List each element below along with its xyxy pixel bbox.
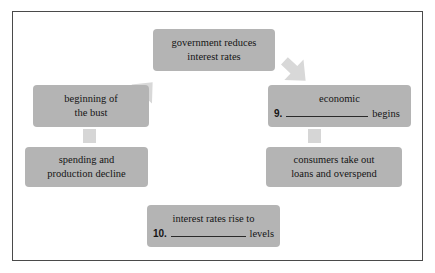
node-economic-begins: economic 9. begins — [268, 85, 411, 127]
connector-spending-to-beginning — [83, 129, 96, 143]
node-interest-tail: levels — [250, 227, 275, 241]
node-consumers-line-1: consumers take out — [293, 153, 374, 167]
node-consumers-take-loans: consumers take out loans and overspend — [266, 147, 402, 187]
node-interest-answer-line: 10. levels — [153, 226, 274, 241]
node-spending-production-decline: spending and production decline — [25, 147, 148, 187]
node-spending-line-2: production decline — [47, 167, 125, 181]
node-government-line-1: government reduces — [172, 36, 257, 50]
node-interest-rates-rise: interest rates rise to 10. levels — [147, 205, 280, 247]
cycle-diagram-figure: government reduces interest rates econom… — [0, 0, 435, 273]
node-government-reduces-interest-rates: government reduces interest rates — [153, 29, 275, 71]
connector-economic-to-consumers — [308, 129, 321, 143]
answer-blank-9[interactable] — [286, 106, 368, 117]
answer-blank-10[interactable] — [171, 226, 246, 237]
node-spending-line-1: spending and — [59, 153, 115, 167]
node-economic-tail: begins — [372, 107, 399, 121]
node-economic-line-1: economic — [319, 92, 360, 106]
node-beginning-line-1: beginning of — [64, 92, 117, 106]
node-government-line-2: interest rates — [187, 50, 240, 64]
node-beginning-of-bust: beginning of the bust — [33, 85, 149, 127]
node-consumers-line-2: loans and overspend — [291, 167, 377, 181]
question-number-9: 9. — [274, 107, 282, 121]
node-interest-line-1: interest rates rise to — [173, 212, 255, 226]
node-economic-answer-line: 9. begins — [274, 106, 405, 121]
question-number-10: 10. — [153, 227, 167, 241]
node-beginning-line-2: the bust — [75, 106, 108, 120]
